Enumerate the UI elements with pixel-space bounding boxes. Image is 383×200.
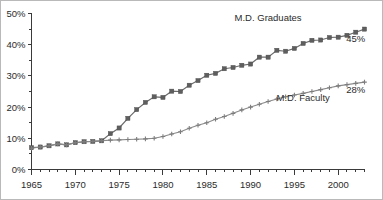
- data-point-faculty: [336, 84, 341, 89]
- data-point-graduates: [222, 67, 226, 71]
- data-point-graduates: [196, 78, 200, 82]
- data-point-faculty: [152, 136, 157, 141]
- data-point-faculty: [143, 137, 148, 142]
- data-point-graduates: [205, 73, 209, 77]
- x-tick-label: 1995: [284, 179, 305, 190]
- data-point-graduates: [231, 65, 235, 69]
- data-point-graduates: [178, 89, 182, 93]
- series-label-faculty: M.D. Faculty: [277, 92, 331, 103]
- data-point-graduates: [213, 71, 217, 75]
- data-point-graduates: [152, 95, 156, 99]
- data-point-faculty: [266, 99, 271, 104]
- data-point-faculty: [327, 85, 332, 90]
- data-point-faculty: [117, 138, 122, 143]
- data-point-graduates: [248, 62, 252, 66]
- data-point-faculty: [169, 132, 174, 137]
- data-point-faculty: [187, 126, 192, 131]
- x-tick-label: 2000: [328, 179, 349, 190]
- series-line-graduates: [32, 29, 365, 148]
- data-point-graduates: [161, 95, 165, 99]
- data-point-faculty: [240, 108, 245, 113]
- end-value-faculty: 28%: [346, 84, 366, 95]
- y-tick-label: 40%: [6, 39, 26, 50]
- data-point-faculty: [231, 111, 236, 116]
- data-point-faculty: [178, 129, 183, 134]
- data-point-faculty: [108, 138, 113, 143]
- series-label-graduates: M.D. Graduates: [235, 12, 302, 23]
- data-point-graduates: [126, 116, 130, 120]
- x-tick-label: 1985: [196, 179, 217, 190]
- data-point-graduates: [240, 63, 244, 67]
- data-point-faculty: [257, 102, 262, 107]
- x-tick-label: 1965: [21, 179, 42, 190]
- end-value-graduates: 45%: [346, 33, 366, 44]
- data-point-faculty: [161, 134, 166, 139]
- data-point-graduates: [310, 38, 314, 42]
- data-point-graduates: [266, 55, 270, 59]
- chart-figure: 0%10%20%30%40%50%19651970197519801985199…: [0, 0, 383, 200]
- data-point-faculty: [134, 137, 139, 142]
- chart-series: [29, 27, 367, 151]
- y-tick-label: 30%: [6, 70, 26, 81]
- data-point-graduates: [170, 89, 174, 93]
- y-tick-label: 20%: [6, 102, 26, 113]
- data-point-faculty: [248, 105, 253, 110]
- data-point-graduates: [187, 83, 191, 87]
- data-point-faculty: [126, 137, 131, 142]
- y-tick-label: 10%: [6, 133, 26, 144]
- x-tick-label: 1975: [109, 179, 130, 190]
- data-point-faculty: [213, 117, 218, 122]
- data-point-graduates: [108, 132, 112, 136]
- data-point-graduates: [362, 27, 366, 31]
- data-point-graduates: [135, 108, 139, 112]
- data-point-graduates: [292, 46, 296, 50]
- line-chart: 0%10%20%30%40%50%19651970197519801985199…: [1, 1, 383, 200]
- data-point-faculty: [204, 120, 209, 125]
- data-point-graduates: [284, 49, 288, 53]
- data-point-graduates: [117, 126, 121, 130]
- x-tick-label: 1970: [65, 179, 86, 190]
- data-point-graduates: [301, 41, 305, 45]
- data-point-faculty: [196, 123, 201, 128]
- data-point-graduates: [143, 100, 147, 104]
- chart-annotations: M.D. Graduates45%M.D. Faculty28%: [235, 12, 366, 103]
- x-tick-label: 1990: [240, 179, 261, 190]
- data-point-graduates: [257, 55, 261, 59]
- x-tick-label: 1980: [152, 179, 173, 190]
- y-tick-label: 50%: [6, 8, 26, 19]
- y-tick-label: 0%: [12, 164, 26, 175]
- data-point-faculty: [222, 114, 227, 119]
- data-point-graduates: [327, 35, 331, 39]
- data-point-graduates: [275, 48, 279, 52]
- data-point-graduates: [319, 38, 323, 42]
- data-point-graduates: [336, 35, 340, 39]
